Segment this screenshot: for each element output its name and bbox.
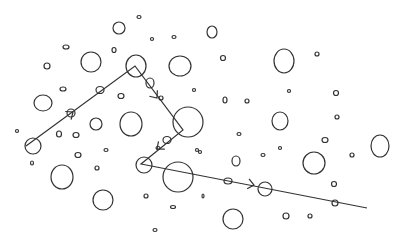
particle-circle [31,161,34,165]
particle-circle [272,112,288,130]
particle-circle [118,94,124,99]
particle-circles [16,16,390,232]
particle-circle [199,151,202,154]
particle-circle [223,209,243,229]
particle-circle [332,182,337,187]
particle-circle [245,99,249,103]
particle-circle [163,162,193,192]
particle-circle [151,38,154,41]
particle-circle [202,194,204,198]
particle-circle [350,153,354,157]
particle-circle [221,56,226,61]
particle-circle [274,49,294,73]
particle-circle [223,97,227,103]
particle-circle [322,138,328,143]
particle-circle [288,90,291,93]
particle-circle [16,130,19,133]
particle-circle [73,133,79,138]
particle-circle [137,16,141,19]
particle-circle [93,190,113,210]
particle-circle [153,229,157,232]
particle-path-diagram [0,0,403,242]
particle-circle [113,22,125,34]
particle-circle [126,55,146,77]
particle-circle [90,118,102,130]
particle-circle [144,194,148,198]
particle-circle [232,156,240,166]
particle-circle [112,48,116,53]
path-direction-arrows [65,90,255,190]
particle-circle [303,152,325,174]
particle-circle [63,45,69,49]
particle-circle [81,52,101,72]
particle-circle [120,112,142,136]
particle-circle [172,36,176,39]
particle-circle [193,89,196,92]
particle-circle [261,154,265,157]
particle-circle [335,115,339,119]
particle-circle [207,26,217,38]
particle-circle [334,91,339,96]
particle-circle [75,153,81,158]
particle-circle [308,214,312,218]
particle-circle [237,133,241,136]
particle-circle [371,135,389,157]
particle-circle [95,166,99,170]
particle-circle [169,56,191,76]
particle-circle [60,87,66,91]
particle-circle [44,63,50,69]
particle-circle [104,149,108,152]
particle-circle [51,165,73,189]
particle-circle [57,131,62,137]
particle-circle [283,213,289,219]
particle-circle [171,206,176,209]
particle-circle [279,147,282,150]
particle-circle [196,149,199,152]
particle-circle [34,95,52,111]
particle-circle [315,52,319,56]
